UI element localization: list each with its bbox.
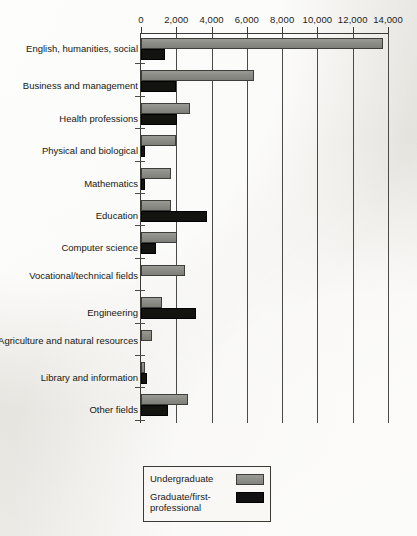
bar-graduate — [141, 211, 207, 222]
x-tick-label: 14,000 — [373, 14, 403, 25]
bar-graduate — [141, 146, 145, 157]
category-label: Education — [0, 210, 138, 221]
x-tick-label: 0 — [138, 14, 143, 25]
category-label: Engineering — [0, 307, 138, 318]
y-axis-tick — [135, 258, 145, 259]
legend-item-undergraduate: Undergraduate — [150, 473, 264, 485]
category-label: Mathematics — [0, 178, 138, 189]
gridline — [388, 34, 389, 423]
x-tick — [353, 27, 354, 34]
y-axis-tick — [135, 63, 145, 64]
bar-undergraduate — [141, 200, 171, 211]
bar-undergraduate — [141, 38, 383, 49]
y-axis-tick — [135, 225, 145, 226]
bar-undergraduate — [141, 265, 185, 276]
gridline — [176, 34, 177, 423]
bar-undergraduate — [141, 70, 254, 81]
bar-chart: 02,0004,0006,0008,00010,00012,00014,000 … — [0, 0, 417, 536]
bar-graduate — [141, 49, 165, 60]
bar-graduate — [141, 114, 177, 125]
bar-undergraduate — [141, 135, 176, 146]
category-label: English, humanities, social — [0, 43, 138, 54]
bar-undergraduate — [141, 168, 171, 179]
y-axis-tick — [135, 420, 145, 421]
x-tick-label: 2,000 — [164, 14, 188, 25]
gridline — [353, 34, 354, 423]
bar-undergraduate — [141, 394, 188, 405]
gridline — [317, 34, 318, 423]
bar-graduate — [141, 308, 196, 319]
y-axis-tick — [135, 96, 145, 97]
y-axis-tick — [135, 193, 145, 194]
category-label: Other fields — [0, 404, 138, 415]
category-label: Vocational/technical fields — [0, 270, 138, 281]
gridline — [247, 34, 248, 423]
category-label: Business and management — [0, 80, 138, 91]
gridline — [282, 34, 283, 423]
category-label: Health professions — [0, 113, 138, 124]
y-axis-tick — [135, 128, 145, 129]
bar-graduate — [141, 373, 147, 384]
gridline — [212, 34, 213, 423]
chart-legend: Undergraduate Graduate/first-professiona… — [143, 466, 271, 522]
y-axis-tick — [135, 161, 145, 162]
bar-undergraduate — [141, 330, 152, 341]
x-tick — [282, 27, 283, 34]
x-tick — [141, 27, 142, 34]
x-tick — [212, 27, 213, 34]
legend-swatch-undergraduate — [236, 474, 264, 485]
bar-graduate — [141, 243, 156, 254]
x-tick — [388, 27, 389, 34]
legend-swatch-graduate — [236, 492, 264, 503]
bar-graduate — [141, 405, 168, 416]
legend-item-graduate: Graduate/first-professional — [150, 491, 264, 513]
x-tick — [247, 27, 248, 34]
bar-graduate — [141, 179, 145, 190]
x-tick-label: 8,000 — [270, 14, 294, 25]
y-axis-tick — [135, 355, 145, 356]
x-tick-label: 6,000 — [235, 14, 259, 25]
bar-undergraduate — [141, 362, 145, 373]
bar-undergraduate — [141, 232, 177, 243]
bar-graduate — [141, 81, 176, 92]
category-label: Agriculture and natural resources — [0, 335, 138, 346]
y-axis-tick — [135, 290, 145, 291]
category-label: Library and information — [0, 372, 138, 383]
x-tick-label: 4,000 — [199, 14, 223, 25]
x-tick — [317, 27, 318, 34]
y-axis-tick — [135, 323, 145, 324]
bar-undergraduate — [141, 297, 162, 308]
x-tick-label: 12,000 — [338, 14, 368, 25]
legend-label-graduate: Graduate/first-professional — [150, 491, 236, 513]
bar-undergraduate — [141, 103, 190, 114]
category-label: Computer science — [0, 242, 138, 253]
x-tick-label: 10,000 — [303, 14, 333, 25]
legend-label-undergraduate: Undergraduate — [150, 473, 217, 484]
y-axis-tick — [135, 387, 145, 388]
x-tick — [176, 27, 177, 34]
category-label: Physical and biological — [0, 145, 138, 156]
